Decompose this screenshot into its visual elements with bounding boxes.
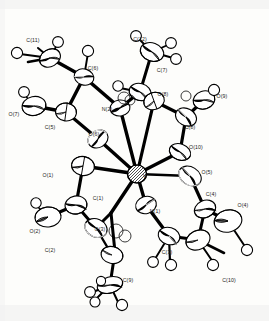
atom-label-o2: O(2) xyxy=(30,229,41,234)
atom-label-c8: C(8) xyxy=(185,125,196,130)
atom-label-c4: C(4) xyxy=(206,192,217,197)
atom-label-c5: C(5) xyxy=(45,125,56,130)
atom-label-c2: C(2) xyxy=(45,248,56,253)
atom-label-o3: O(3) xyxy=(95,227,106,232)
molecule-drawing xyxy=(0,0,269,321)
atom-label-o10: O(10) xyxy=(189,145,203,150)
atom-label-c11: C(11) xyxy=(26,38,39,43)
atom-label-c9: C(9) xyxy=(123,278,134,283)
atom-label-o9: O(9) xyxy=(217,94,228,99)
atom-label-v: V xyxy=(143,174,147,180)
atom-label-o7: O(7) xyxy=(9,112,20,117)
atom-label-o1: O(1) xyxy=(43,173,54,178)
atom-label-c7: C(7) xyxy=(157,68,168,73)
atom-label-o4: O(4) xyxy=(238,203,249,208)
atom-label-n2: N(2) xyxy=(102,107,113,112)
atom-label-c3: C(3) xyxy=(162,250,173,255)
ortep-structure-figure: C(11) C(12) C(6) C(7) O(8) O(9) O(7) C(5… xyxy=(0,0,269,321)
atom-label-c6: C(6) xyxy=(88,66,99,71)
atom-label-o8: O(8) xyxy=(158,92,169,97)
atom-label-o5: O(5) xyxy=(202,170,213,175)
atom-label-c1: C(1) xyxy=(93,196,104,201)
atom-label-c12: C(12) xyxy=(133,37,147,42)
atom-label-o6: O(6) xyxy=(89,132,100,137)
atom-label-n1: N(1) xyxy=(150,209,161,214)
atom-label-c10: C(10) xyxy=(222,278,236,283)
